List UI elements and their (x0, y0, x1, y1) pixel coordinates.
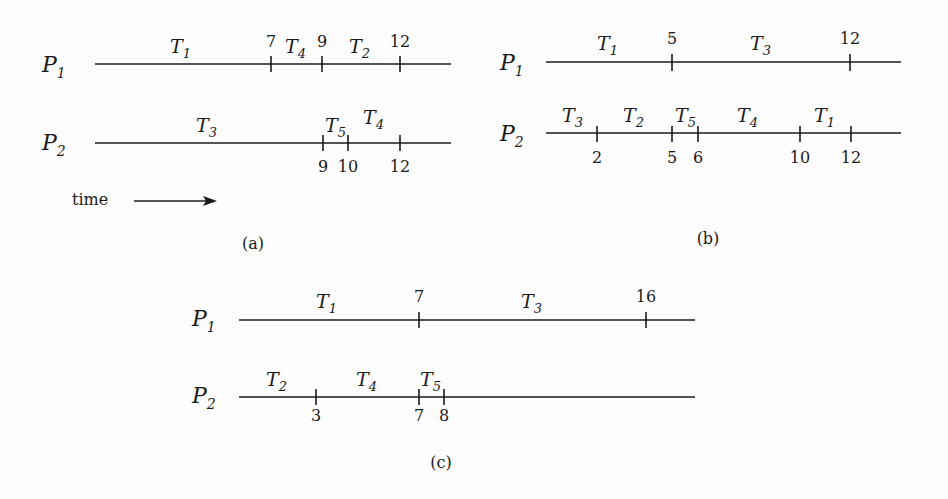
tick-label: 5 (667, 148, 677, 167)
task-label: T5 (420, 368, 441, 394)
task-label: T4 (363, 106, 384, 132)
tick-label: 10 (338, 157, 358, 176)
tick-label: 9 (318, 157, 328, 176)
task-label: T2 (349, 35, 370, 61)
tick-label: 10 (790, 148, 810, 167)
task-label: T4 (737, 104, 758, 130)
tick-label: 12 (390, 32, 410, 51)
panel-c-caption: (c) (430, 453, 451, 472)
time-label: time (72, 190, 108, 209)
tick-label: 7 (414, 406, 424, 425)
panel-a-p1-label: P1 (41, 52, 66, 81)
schedule-diagrams: P1 P2 P1 P2 P1 P2 T1 T4 T2 T3 T5 T4 T1 T… (0, 0, 948, 499)
task-label: T4 (356, 368, 377, 394)
panel-c-p1-label: P1 (191, 306, 216, 335)
panel-b-p2-label: P2 (499, 121, 524, 150)
tick-label: 12 (841, 148, 861, 167)
task-label: T3 (750, 32, 771, 58)
task-label: T3 (196, 114, 217, 140)
task-label: T1 (316, 290, 337, 316)
tick-label: 7 (414, 287, 424, 306)
panel-a-caption: (a) (242, 234, 264, 253)
panel-c-p2-label: P2 (191, 383, 216, 412)
panel-b-caption: (b) (697, 229, 720, 248)
task-label: T1 (170, 35, 191, 61)
panel-a-p2-label: P2 (41, 130, 66, 159)
tick-label: 8 (439, 406, 449, 425)
task-label: T4 (285, 35, 306, 61)
tick-label: 3 (311, 406, 321, 425)
task-label: T1 (597, 32, 618, 58)
task-label: T3 (562, 104, 583, 130)
task-label: T5 (325, 114, 346, 140)
panel-b-p1-label: P1 (499, 50, 524, 79)
tick-label: 16 (636, 287, 656, 306)
tick-label: 12 (390, 157, 410, 176)
task-label: T5 (675, 104, 696, 130)
tick-label: 7 (266, 32, 276, 51)
tick-label: 5 (667, 29, 677, 48)
tick-label: 12 (840, 29, 860, 48)
task-label: T1 (814, 104, 835, 130)
tick-label: 9 (317, 32, 327, 51)
tick-label: 6 (693, 148, 703, 167)
task-label: T3 (521, 290, 542, 316)
task-label: T2 (623, 104, 644, 130)
tick-label: 2 (592, 148, 602, 167)
task-label: T2 (266, 368, 287, 394)
